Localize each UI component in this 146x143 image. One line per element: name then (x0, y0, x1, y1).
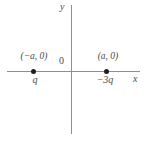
x-axis-line (7, 71, 140, 72)
x-axis-label: x (133, 74, 137, 84)
y-axis-line (71, 5, 72, 134)
coordinate-diagram: y x 0 (−a, 0) q (a, 0) −3q (0, 0, 146, 143)
point-left-charge-label: q (25, 75, 45, 85)
point-right-charge-label: −3q (91, 75, 119, 85)
origin-label: 0 (59, 56, 64, 66)
y-axis-label: y (60, 2, 64, 12)
point-left-coordinate-label: (−a, 0) (13, 51, 55, 61)
point-right-coordinate-label: (a, 0) (89, 51, 127, 61)
